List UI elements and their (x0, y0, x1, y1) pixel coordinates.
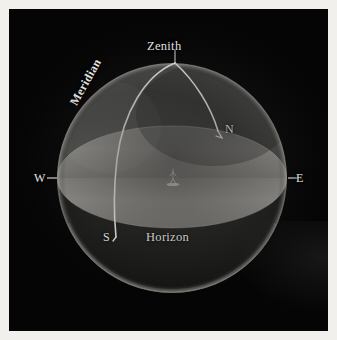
north-point-marker (216, 131, 222, 138)
meridian-arc-to-north (175, 63, 218, 131)
observer-figure (164, 166, 182, 188)
label-north: N (225, 123, 234, 135)
label-east: E (296, 172, 304, 184)
label-zenith: Zenith (147, 40, 181, 53)
label-horizon: Horizon (146, 231, 189, 244)
label-south: S (103, 231, 110, 243)
south-point-marker (113, 237, 116, 241)
sphere-container: Zenith Meridian N S Horizon W E (9, 9, 328, 331)
celestial-sphere-figure: Zenith Meridian N S Horizon W E (0, 0, 337, 340)
figure-plate: Zenith Meridian N S Horizon W E (9, 9, 328, 331)
meridian-arc-to-south (114, 63, 175, 237)
observer-base-shadow (167, 183, 180, 186)
label-west: W (34, 172, 46, 184)
